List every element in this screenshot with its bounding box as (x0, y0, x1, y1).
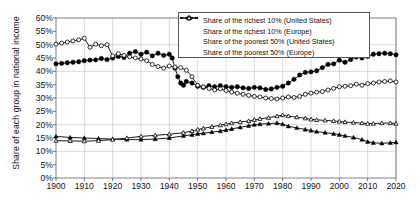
filled-triangle-icon (183, 37, 203, 47)
legend-item: Share of the richest 10% (United States) (183, 16, 365, 27)
legend-item: Share of the richest 10% (Europe) (183, 27, 365, 38)
legend-item: Share of the poorest 50% (Europe) (183, 48, 365, 59)
legend-item: Share of the poorest 50% (United States) (183, 37, 365, 48)
hollow-triangle-icon (183, 48, 203, 58)
legend-label: Share of the poorest 50% (United States) (203, 37, 334, 47)
chart-figure: Share of each group in national income 0… (0, 0, 420, 215)
chart-legend: Share of the richest 10% (United States)… (178, 12, 370, 58)
hollow-circle-icon (183, 27, 203, 37)
legend-label: Share of the richest 10% (Europe) (203, 27, 312, 37)
legend-label: Share of the poorest 50% (Europe) (203, 48, 314, 58)
legend-label: Share of the richest 10% (United States) (203, 16, 332, 26)
